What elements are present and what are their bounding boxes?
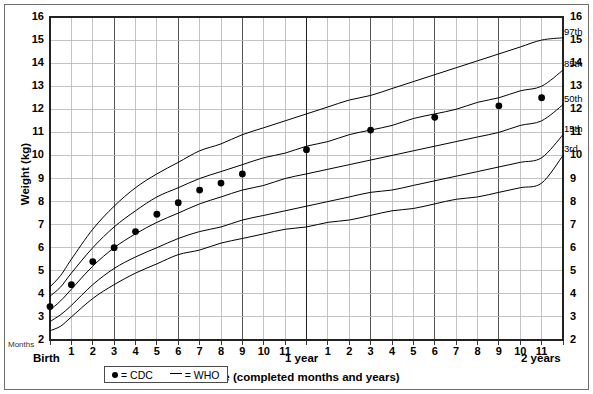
y-tick-label-right-2: 2	[570, 334, 592, 345]
y-tick-label-left-14: 14	[22, 57, 44, 68]
y-tick-label-left-6: 6	[22, 242, 44, 253]
y-tick-label-left-10: 10	[22, 149, 44, 160]
x-tick-label-4mo: 4	[126, 346, 146, 357]
x-tick-label-10mo: 10	[254, 346, 274, 357]
percentile-label-3rd: 3rd	[564, 144, 578, 154]
x-tick-label-11mo: 11	[275, 346, 295, 357]
legend-label-cdc: = CDC	[121, 369, 153, 381]
y-tick-label-right-3: 3	[570, 311, 592, 322]
legend-entry-who: = WHO	[170, 369, 220, 381]
who-dash-icon	[170, 373, 182, 374]
x-major-label-birth: Birth	[33, 352, 60, 364]
x-tick-label-20mo: 8	[468, 346, 488, 357]
x-axis-title: Age (completed months and years)	[208, 371, 400, 383]
percentile-label-85th: 85th	[564, 59, 583, 69]
percentile-label-50th: 50th	[564, 94, 583, 104]
y-tick-label-right-9: 9	[570, 173, 592, 184]
x-tick-label-19mo: 7	[446, 346, 466, 357]
y-tick-label-left-5: 5	[22, 265, 44, 276]
x-tick-label-16mo: 4	[382, 346, 402, 357]
x-tick-label-17mo: 5	[403, 346, 423, 357]
x-tick-label-2mo: 2	[83, 346, 103, 357]
x-tick-label-1mo: 1	[61, 346, 81, 357]
x-tick-label-23mo: 11	[532, 346, 552, 357]
legend-label-who: = WHO	[185, 369, 220, 381]
y-tick-label-right-13: 13	[570, 80, 592, 91]
x-tick-label-3mo: 3	[104, 346, 124, 357]
y-tick-label-right-16: 16	[570, 11, 592, 22]
y-tick-label-right-4: 4	[570, 288, 592, 299]
cdc-dot-icon	[112, 372, 118, 378]
x-tick-label-14mo: 2	[339, 346, 359, 357]
y-tick-label-right-8: 8	[570, 196, 592, 207]
x-tick-label-5mo: 5	[147, 346, 167, 357]
percentile-label-97th: 97th	[564, 27, 583, 37]
y-tick-label-left-7: 7	[22, 219, 44, 230]
x-tick-label-21mo: 9	[489, 346, 509, 357]
y-tick-label-right-7: 7	[570, 219, 592, 230]
y-tick-label-left-12: 12	[22, 103, 44, 114]
y-tick-label-left-3: 3	[22, 311, 44, 322]
x-tick-label-6mo: 6	[168, 346, 188, 357]
y-tick-label-left-13: 13	[22, 80, 44, 91]
percentile-label-15th: 15th	[564, 124, 583, 134]
y-tick-label-left-2: 2	[22, 334, 44, 345]
x-tick-label-9mo: 9	[232, 346, 252, 357]
y-tick-label-right-5: 5	[570, 265, 592, 276]
y-tick-label-left-15: 15	[22, 34, 44, 45]
y-tick-label-left-11: 11	[22, 126, 44, 137]
y-tick-label-left-16: 16	[22, 11, 44, 22]
x-tick-label-8mo: 8	[211, 346, 231, 357]
x-tick-label-7mo: 7	[190, 346, 210, 357]
x-tick-label-18mo: 6	[425, 346, 445, 357]
growth-chart-plot	[0, 0, 593, 394]
chart-legend: = CDC = WHO	[104, 366, 228, 383]
legend-entry-cdc: = CDC	[112, 369, 153, 381]
x-tick-label-15mo: 3	[361, 346, 381, 357]
y-tick-label-left-9: 9	[22, 173, 44, 184]
x-tick-label-13mo: 1	[318, 346, 338, 357]
x-tick-label-22mo: 10	[510, 346, 530, 357]
growth-chart-page: Weight (kg) Months Birth 1 year 2 years …	[0, 0, 593, 394]
y-tick-label-right-6: 6	[570, 242, 592, 253]
y-tick-label-right-12: 12	[570, 103, 592, 114]
y-tick-label-left-4: 4	[22, 288, 44, 299]
y-tick-label-left-8: 8	[22, 196, 44, 207]
